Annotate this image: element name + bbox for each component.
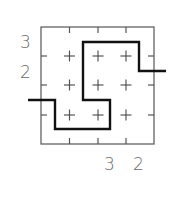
row-clue-1: 3 bbox=[20, 34, 31, 51]
grid-intersections bbox=[64, 51, 132, 121]
col-clue-3: 3 bbox=[104, 156, 115, 173]
col-clue-4: 2 bbox=[133, 156, 144, 173]
row-clue-2: 2 bbox=[20, 64, 31, 81]
puzzle-diagram bbox=[0, 0, 172, 200]
